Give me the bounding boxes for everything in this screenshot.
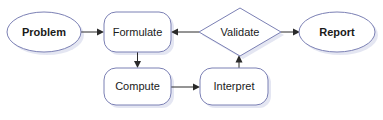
report-label: Report bbox=[319, 26, 355, 38]
problem-label: Problem bbox=[22, 26, 66, 38]
edge-compute-to-interpret bbox=[171, 84, 200, 91]
node-formulate[interactable]: Formulate bbox=[104, 12, 171, 52]
node-layer: Problem Formulate Validate Report Comput… bbox=[7, 8, 375, 105]
edge-formulate-to-compute-arrowhead bbox=[134, 61, 141, 68]
validate-label: Validate bbox=[221, 26, 260, 38]
flowchart-canvas: Problem Formulate Validate Report Comput… bbox=[0, 0, 383, 120]
node-compute[interactable]: Compute bbox=[104, 68, 171, 105]
node-validate[interactable]: Validate bbox=[199, 8, 281, 56]
edge-problem-to-formulate-arrowhead bbox=[97, 29, 104, 36]
edge-validate-to-formulate bbox=[171, 29, 199, 36]
edge-problem-to-formulate bbox=[81, 29, 104, 36]
flowchart-svg: Problem Formulate Validate Report Comput… bbox=[0, 0, 383, 120]
edge-validate-to-report bbox=[281, 29, 300, 36]
interpret-label: Interpret bbox=[214, 80, 255, 92]
node-problem[interactable]: Problem bbox=[7, 12, 81, 52]
node-interpret[interactable]: Interpret bbox=[200, 68, 268, 105]
formulate-label: Formulate bbox=[113, 26, 163, 38]
node-report[interactable]: Report bbox=[299, 12, 375, 52]
edge-compute-to-interpret-arrowhead bbox=[193, 84, 200, 91]
compute-label: Compute bbox=[115, 80, 160, 92]
